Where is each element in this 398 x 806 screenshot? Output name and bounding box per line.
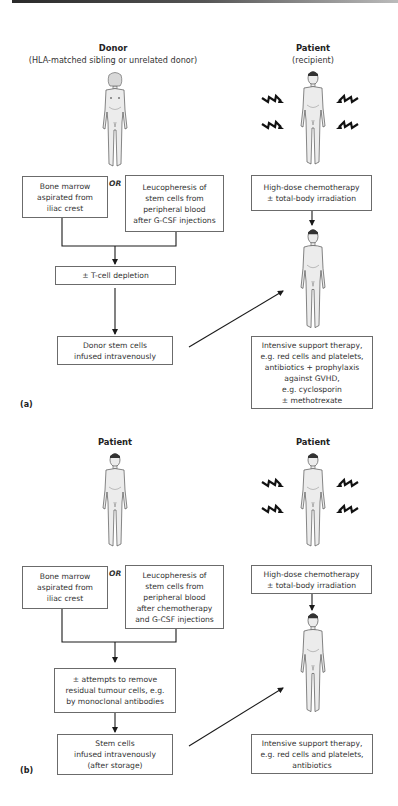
irradiation-bolt-icon bbox=[262, 96, 284, 103]
support-therapy-box: Intensive support therapy, e.g. red cell… bbox=[251, 336, 373, 409]
donor-figure-icon bbox=[103, 73, 127, 167]
right-patient-heading: Patient bbox=[263, 437, 363, 447]
bone-marrow-box: Bone marrow aspirated from iliac crest bbox=[22, 566, 108, 609]
stem-cell-infusion-text: Stem cells infused intravenously (after … bbox=[74, 738, 156, 771]
patient-autologous-figure-icon bbox=[103, 454, 127, 547]
donor-infusion-text: Donor stem cells infused intravenously bbox=[74, 340, 156, 362]
donor-infusion-box: Donor stem cells infused intravenously bbox=[57, 336, 173, 365]
bone-marrow-box: Bone marrow aspirated from iliac crest bbox=[22, 176, 108, 218]
conditioning-text: High-dose chemotherapy ± total-body irra… bbox=[264, 569, 360, 591]
conditioning-box: High-dose chemotherapy ± total-body irra… bbox=[251, 175, 372, 211]
recipient-heading: Patient bbox=[263, 43, 363, 53]
conditioning-box: High-dose chemotherapy ± total-body irra… bbox=[251, 565, 372, 594]
irradiation-bolt-icon bbox=[262, 506, 284, 513]
support-therapy-text: Intensive support therapy, e.g. red cell… bbox=[260, 738, 363, 771]
left-patient-heading: Patient bbox=[65, 437, 165, 447]
leucopheresis-text: Leucopheresis of stem cells from periphe… bbox=[133, 182, 215, 226]
t-cell-depletion-box: ± T-cell depletion bbox=[55, 266, 176, 285]
irradiation-bolt-icon bbox=[336, 96, 358, 103]
leucopheresis-box: Leucopheresis of stem cells from periphe… bbox=[125, 565, 224, 629]
stem-cell-infusion-box: Stem cells infused intravenously (after … bbox=[57, 734, 173, 775]
donor-heading: Donor bbox=[63, 43, 163, 53]
leucopheresis-text: Leucopheresis of stem cells from periphe… bbox=[135, 570, 214, 625]
patient-conditioned-figure-icon bbox=[301, 614, 325, 712]
bone-marrow-text: Bone marrow aspirated from iliac crest bbox=[37, 181, 93, 214]
irradiation-bolt-icon bbox=[336, 506, 358, 513]
or-label: OR bbox=[109, 569, 121, 578]
donor-subtitle: (HLA-matched sibling or unrelated donor) bbox=[14, 55, 212, 65]
support-therapy-text: Intensive support therapy, e.g. red cell… bbox=[260, 340, 363, 406]
patient-recipient-figure-icon bbox=[301, 72, 325, 165]
bone-marrow-text: Bone marrow aspirated from iliac crest bbox=[37, 571, 93, 604]
tumour-purging-box: ± attempts to remove residual tumour cel… bbox=[54, 668, 176, 713]
irradiation-bolt-icon bbox=[262, 122, 284, 129]
irradiation-bolt-icon bbox=[336, 480, 358, 487]
t-cell-depletion-text: ± T-cell depletion bbox=[82, 270, 149, 281]
irradiation-bolt-icon bbox=[262, 480, 284, 487]
patient-irradiated-figure-icon bbox=[301, 454, 325, 547]
panel-label-a: (a) bbox=[20, 400, 33, 409]
recipient-subtitle: (recipient) bbox=[263, 55, 363, 65]
irradiation-bolt-icon bbox=[336, 122, 358, 129]
patient-conditioned-figure-icon bbox=[301, 230, 325, 328]
or-label: OR bbox=[109, 179, 121, 188]
conditioning-text: High-dose chemotherapy ± total-body irra… bbox=[264, 182, 360, 204]
panel-label-b: (b) bbox=[20, 766, 33, 775]
tumour-purging-text: ± attempts to remove residual tumour cel… bbox=[66, 674, 165, 707]
leucopheresis-box: Leucopheresis of stem cells from periphe… bbox=[125, 175, 224, 232]
support-therapy-box: Intensive support therapy, e.g. red cell… bbox=[251, 734, 373, 774]
